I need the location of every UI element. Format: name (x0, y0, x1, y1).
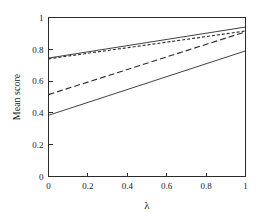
x-axis-ticks (49, 173, 246, 177)
chart-canvas: 00.20.40.60.81 00.20.40.60.81 λ Mean sco… (0, 0, 262, 220)
y-tick-label: 1 (39, 13, 44, 23)
chart-figure: 00.20.40.60.81 00.20.40.60.81 λ Mean sco… (0, 0, 262, 220)
y-tick-label: 0.2 (32, 140, 43, 150)
x-axis-label: λ (144, 199, 150, 211)
data-series-group (49, 27, 246, 115)
x-axis-tick-labels: 00.20.40.60.81 (46, 181, 248, 191)
x-tick-label: 0.4 (122, 181, 134, 191)
y-tick-label: 0.8 (32, 45, 44, 55)
x-tick-label: 0.2 (82, 181, 93, 191)
x-tick-label: 1 (243, 181, 248, 191)
y-axis-tick-labels: 00.20.40.60.81 (32, 13, 44, 182)
series-2-short-dash (49, 31, 246, 59)
x-tick-label: 0.6 (161, 181, 173, 191)
y-tick-label: 0.6 (32, 76, 44, 86)
y-axis-ticks (49, 18, 53, 177)
y-tick-label: 0.4 (32, 108, 44, 118)
x-tick-label: 0 (46, 181, 51, 191)
y-tick-label: 0 (39, 172, 44, 182)
series-1-solid-upper (49, 27, 246, 58)
x-tick-label: 0.8 (200, 181, 212, 191)
series-3-long-dash (49, 32, 246, 95)
y-axis-label: Mean score (11, 73, 22, 120)
series-4-solid-lower (49, 51, 246, 115)
